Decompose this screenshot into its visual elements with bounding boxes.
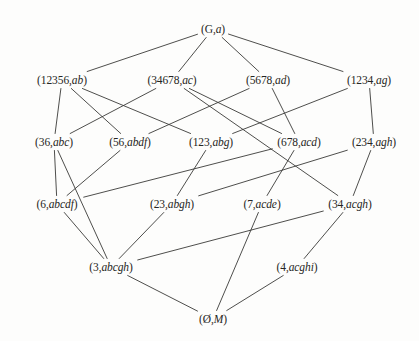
lattice-node-n10[interactable]: (6,abcdf): [37, 198, 78, 210]
lattice-edge: [119, 213, 164, 259]
lattice-node-n13[interactable]: (34,acgh): [328, 198, 372, 210]
node-close-paren: ): [74, 198, 78, 210]
node-intent: ab: [72, 74, 83, 86]
node-intent: abc: [53, 136, 69, 148]
lattice-node-n9[interactable]: (234,agh): [352, 136, 396, 148]
node-close-paren: ): [277, 198, 281, 210]
node-intent: acd: [301, 136, 317, 148]
lattice-edge: [179, 38, 206, 72]
node-intent: abcdf: [49, 198, 74, 210]
node-extent: 34678: [151, 74, 179, 86]
node-extent: G: [205, 23, 213, 35]
node-extent: 5678: [250, 74, 273, 86]
node-close-paren: ): [286, 74, 290, 86]
lattice-node-n5[interactable]: (36,abc): [35, 136, 73, 148]
lattice-node-n14[interactable]: (3,abcgh): [89, 261, 133, 273]
lattice-edge: [149, 89, 249, 134]
lattice-diagram-figure: (G,a)(12356,ab)(34678,ac)(5678,ad)(1234,…: [0, 0, 419, 341]
lattice-edge: [267, 151, 294, 196]
lattice-edge: [54, 151, 56, 196]
lattice-edge: [229, 34, 344, 71]
node-extent: Ø: [203, 313, 211, 325]
node-intent: ad: [275, 74, 286, 86]
lattice-node-n4[interactable]: (1234,ag): [347, 74, 391, 86]
lattice-node-n2[interactable]: (34678,ac): [147, 74, 196, 86]
node-close-paren: ): [392, 136, 396, 148]
lattice-edge: [64, 213, 103, 259]
node-extent: 23: [154, 198, 165, 210]
lattice-edge: [233, 89, 348, 134]
node-close-paren: ): [129, 261, 133, 273]
node-extent: 12356: [41, 74, 69, 86]
lattice-edge: [227, 276, 284, 311]
lattice-node-n8[interactable]: (678,acd): [277, 136, 321, 148]
node-intent: abcgh: [101, 261, 129, 273]
lattice-node-n16[interactable]: (Ø,M): [199, 313, 227, 325]
node-extent: 1234: [351, 74, 374, 86]
node-close-paren: ): [387, 74, 391, 86]
lattice-node-n7[interactable]: (123,abg): [189, 136, 233, 148]
node-intent: abdf: [127, 136, 147, 148]
node-close-paren: ): [317, 136, 321, 148]
lattice-node-n11[interactable]: (23,abgh): [150, 198, 194, 210]
lattice-edges-layer: [0, 0, 419, 341]
lattice-node-n12[interactable]: (7,acde): [243, 198, 280, 210]
node-close-paren: ): [190, 198, 194, 210]
node-extent: 234: [356, 136, 373, 148]
lattice-node-n1[interactable]: (12356,ab): [37, 74, 87, 86]
node-close-paren: ): [229, 136, 233, 148]
node-intent: acde: [256, 198, 277, 210]
node-extent: 34: [332, 198, 343, 210]
node-close-paren: ): [69, 136, 73, 148]
node-intent: acgh: [346, 198, 368, 210]
node-close-paren: ): [83, 74, 87, 86]
lattice-node-n3[interactable]: (5678,ad): [246, 74, 290, 86]
lattice-edge: [353, 151, 370, 196]
lattice-edge: [177, 151, 205, 196]
node-extent: 36: [39, 136, 50, 148]
lattice-edge: [87, 34, 197, 71]
lattice-edge: [138, 211, 324, 260]
lattice-edge: [128, 276, 198, 312]
lattice-edge: [217, 213, 259, 311]
lattice-edge: [67, 151, 120, 196]
node-intent: abgh: [168, 198, 191, 210]
lattice-edge: [370, 89, 374, 134]
node-extent: 56: [113, 136, 124, 148]
node-intent: ac: [182, 74, 193, 86]
node-intent: ag: [376, 74, 387, 86]
lattice-edge: [304, 213, 343, 259]
lattice-edge: [189, 89, 281, 134]
node-close-paren: ): [193, 74, 197, 86]
node-close-paren: ): [368, 198, 372, 210]
lattice-edge: [272, 89, 295, 134]
node-extent: 123: [193, 136, 210, 148]
lattice-node-n0[interactable]: (G,a): [201, 23, 225, 35]
node-intent: agh: [375, 136, 392, 148]
node-close-paren: ): [223, 313, 227, 325]
node-close-paren: ): [314, 261, 318, 273]
lattice-edge: [55, 89, 61, 134]
lattice-edge: [84, 149, 273, 197]
lattice-node-n6[interactable]: (56,abdf): [109, 136, 151, 148]
node-intent: acghi: [289, 261, 314, 273]
lattice-edge: [82, 89, 190, 134]
node-intent: abg: [212, 136, 229, 148]
node-close-paren: ): [221, 23, 225, 35]
node-extent: 678: [281, 136, 298, 148]
lattice-edge: [199, 150, 348, 196]
node-close-paren: ): [147, 136, 151, 148]
lattice-node-n15[interactable]: (4,acghi): [277, 261, 318, 273]
node-intent: M: [214, 313, 223, 325]
